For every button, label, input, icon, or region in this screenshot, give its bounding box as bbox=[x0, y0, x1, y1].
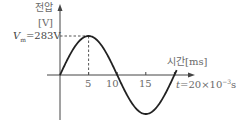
period-label: t=20×10−3s bbox=[176, 79, 236, 90]
x-tick-label-15: 15 bbox=[139, 79, 152, 89]
x-tick-label-5: 5 bbox=[85, 79, 91, 89]
peak-label-rest: =283V bbox=[26, 30, 61, 41]
peak-value-label: Vm=283V bbox=[13, 31, 61, 43]
period-label-unit: s bbox=[231, 79, 236, 90]
period-label-rest: =20×10 bbox=[180, 79, 222, 90]
y-axis-label-line2: [V] bbox=[38, 18, 53, 28]
x-axis-arrow-icon bbox=[188, 73, 195, 78]
x-axis-label: 시간[ms] bbox=[167, 57, 207, 67]
x-tick-label-10: 10 bbox=[106, 79, 119, 89]
y-axis-label-line1: 전압 bbox=[35, 3, 53, 13]
period-label-exp: −3 bbox=[222, 78, 231, 85]
y-axis-arrow-icon bbox=[58, 4, 63, 11]
